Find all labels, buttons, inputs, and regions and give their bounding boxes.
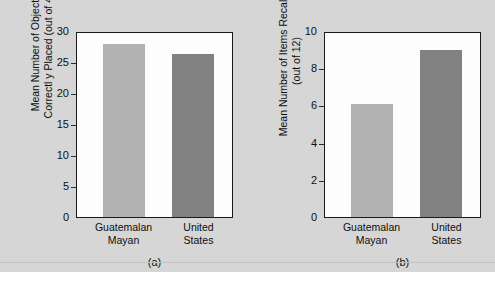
chart-panel-b: Mean Number of Items Recalled (out of 12…: [248, 0, 495, 291]
bar-body: [172, 54, 214, 217]
y-axis-ticks-a: 30 25 20 15 10 5: [40, 32, 76, 218]
x-axis-labels-b: Guatemalan Mayan United States: [324, 221, 481, 253]
plot-area-b: [324, 32, 481, 218]
chart-panel-a: Mean Number of Objects Correctl y Placed…: [0, 0, 247, 291]
bar-body: [351, 104, 393, 217]
bar-body: [420, 50, 462, 217]
bar-b-united-states: [420, 50, 462, 217]
bar-a-united-states: [172, 54, 214, 217]
scan-artifact-line: [0, 262, 495, 263]
plot-area-a: [76, 32, 233, 218]
x-label-b-united-states: United States: [394, 221, 495, 247]
x-label-a-united-states: United States: [146, 221, 251, 247]
bar-b-guatemalan-mayan: [351, 104, 393, 217]
figure-container: Mean Number of Objects Correctl y Placed…: [0, 0, 495, 291]
bar-body: [103, 44, 145, 217]
y-axis-ticks-b: 10 8 6 4 2 0: [288, 32, 324, 218]
page-margin: [0, 272, 495, 291]
x-axis-labels-a: Guatemalan Mayan United States: [76, 221, 233, 253]
bar-a-guatemalan-mayan: [103, 44, 145, 217]
